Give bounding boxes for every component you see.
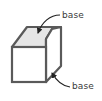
- right-side-face: [46, 27, 61, 82]
- bottom-base-label: base: [72, 82, 94, 91]
- top-base-label: base: [62, 11, 84, 20]
- front-face: [12, 47, 46, 82]
- bottom-base-arrow: [52, 73, 70, 87]
